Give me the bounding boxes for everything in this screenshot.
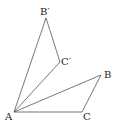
- segment-ab-prime: [14, 18, 46, 112]
- label-a: A: [4, 111, 13, 122]
- segment-c-prime-a: [14, 62, 60, 112]
- geometry-diagram: A B C B′ C′: [0, 0, 119, 130]
- segment-b-prime-c-prime: [46, 18, 60, 62]
- triangle-abc: [14, 75, 101, 112]
- segment-ab: [14, 75, 101, 112]
- triangle-ab-prime-c-prime: [14, 18, 60, 112]
- label-c: C: [83, 111, 91, 122]
- label-b: B: [104, 69, 111, 80]
- label-c-prime: C′: [61, 56, 72, 67]
- segment-bc: [82, 75, 101, 112]
- label-b-prime: B′: [40, 6, 50, 17]
